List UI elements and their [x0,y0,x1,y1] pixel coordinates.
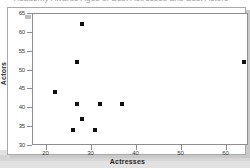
cut-off-title-strip: Academy Awards Ages of Best Actresses an… [0,0,250,7]
y-axis-tick-label: 35 [11,123,25,129]
data-point [98,102,102,106]
y-axis-tick-label: 50 [11,67,25,73]
y-axis-tick [27,145,32,146]
data-point [120,102,124,106]
data-point [242,60,246,64]
x-axis-tick-label: 30 [83,150,99,156]
data-point [75,60,79,64]
y-axis-tick-label: 55 [11,48,25,54]
y-axis-tick-label: 65 [11,10,25,16]
y-axis-title: Actors [0,62,7,85]
x-axis-title: Actresses [8,158,247,165]
x-axis-tick-label: 50 [173,150,189,156]
data-point [80,117,84,121]
data-point [75,102,79,106]
data-point [53,90,57,94]
x-axis-tick-label: 60 [218,150,234,156]
x-axis-tick-label: 20 [38,150,54,156]
data-point [80,22,84,26]
corner-artifact-icon [25,15,31,19]
y-axis-tick-label: 45 [11,85,25,91]
y-axis-tick-label: 30 [11,142,25,148]
figure-title-fragment: Academy Awards Ages of Best Actresses an… [14,0,229,3]
plot-data-area [32,13,248,145]
data-point [71,128,75,132]
data-point [93,128,97,132]
y-axis-tick-label: 40 [11,104,25,110]
x-axis-tick-label: 40 [128,150,144,156]
scatter-plot-figure: 3035404550556065 2030405060 Actors Actre… [7,7,246,155]
y-axis-tick-label: 60 [11,29,25,35]
